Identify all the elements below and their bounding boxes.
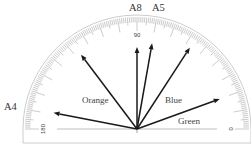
scale-label-180: 180 — [40, 123, 46, 134]
label-a5: A5 — [152, 2, 165, 13]
scale-label-90: 90 — [134, 32, 141, 38]
protractor-canvas: 180900 A4OrangeA8A5BlueGreen — [0, 0, 251, 146]
label-a4: A4 — [4, 101, 18, 112]
label-a8: A8 — [129, 2, 142, 13]
label-green: Green — [178, 116, 200, 126]
label-blue: Blue — [165, 95, 182, 105]
label-orange: Orange — [82, 95, 109, 105]
protractor-diagram: 180900 A4OrangeA8A5BlueGreen — [0, 0, 251, 146]
